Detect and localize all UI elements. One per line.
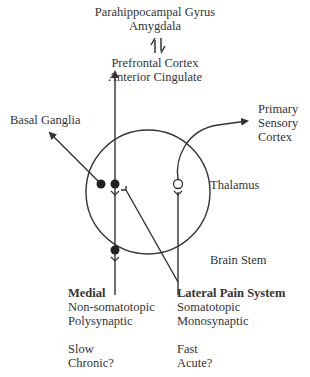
label-anterior-cingulate: Anterior Cingulate (80, 70, 230, 85)
neuron-open-icon (174, 180, 183, 189)
label-parahippocampal: Parahippocampal Gyrus (80, 5, 230, 20)
neuron-dot-icon (111, 246, 120, 255)
label-basal-ganglia: Basal Ganglia (10, 113, 80, 128)
medial-line1: Non-somatotopic (68, 300, 155, 315)
medial-line3: Slow (68, 342, 94, 357)
basal-ganglia-arrow (50, 133, 101, 184)
neuron-dot-icon (111, 180, 120, 189)
lateral-line2: Monosynaptic (177, 314, 249, 329)
thalamus-circle (86, 130, 210, 254)
lateral-line3: Fast (177, 342, 198, 357)
lateral-title: Lateral Pain System (177, 286, 285, 301)
sensory-cortex-arrow (177, 121, 247, 179)
medial-line4: Chronic? (68, 356, 114, 371)
neuron-dot-icon (97, 180, 106, 189)
label-sensory: Sensory (258, 116, 298, 131)
label-primary: Primary (258, 102, 298, 117)
medial-line2: Polysynaptic (68, 314, 133, 329)
lateral-line1: Somatotopic (177, 300, 240, 315)
label-prefrontal: Prefrontal Cortex (80, 56, 230, 71)
label-cortex: Cortex (258, 130, 292, 145)
label-amygdala: Amygdala (80, 19, 230, 34)
bidirectional-arrow-icon (151, 38, 165, 53)
lateral-line4: Acute? (177, 356, 212, 371)
lateral-branch-line (121, 186, 178, 282)
medial-title: Medial (68, 286, 106, 301)
label-thalamus: Thalamus (210, 178, 259, 193)
label-brain-stem: Brain Stem (210, 253, 267, 268)
